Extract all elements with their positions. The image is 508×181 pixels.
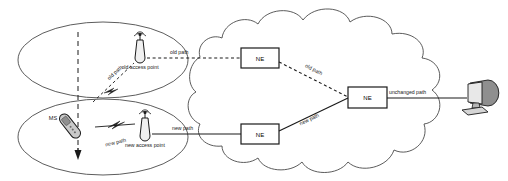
unchanged-path-label: unchanged path <box>389 89 426 95</box>
old-access-point-label: old access point <box>121 64 159 70</box>
ne-node-bottom-label: NE <box>256 132 264 138</box>
mobile-station-label: MS <box>49 115 58 121</box>
ne-node-right: NE <box>348 87 387 108</box>
ne-node-top-label: NE <box>256 56 264 62</box>
ne-node-bottom: NE <box>241 124 279 144</box>
new-access-point-label: new access point <box>125 142 165 148</box>
new-backhaul-path-label: new path <box>172 125 193 131</box>
old-backhaul-path-label: old path <box>170 49 189 55</box>
network-handover-diagram: old path new path old access point new a… <box>0 0 508 181</box>
ne-node-right-label: NE <box>363 95 371 101</box>
ne-node-top: NE <box>241 48 279 68</box>
old-cell-coverage-area <box>18 22 188 98</box>
terminal-computer <box>462 80 499 115</box>
new-cell-coverage-area <box>18 99 188 175</box>
